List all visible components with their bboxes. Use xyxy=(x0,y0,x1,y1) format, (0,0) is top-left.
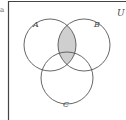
universe-label: U xyxy=(117,8,125,18)
set-b-label: B xyxy=(93,20,100,29)
venn-diagram: U A B C xyxy=(0,0,126,120)
set-a-label: A xyxy=(32,20,39,29)
set-c-label: C xyxy=(63,100,69,109)
